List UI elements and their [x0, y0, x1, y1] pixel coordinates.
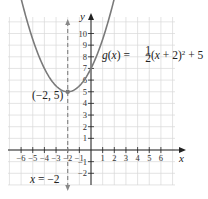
- svg-text:3: 3: [124, 153, 128, 163]
- svg-text:g(x) =: g(x) =: [102, 49, 130, 62]
- vertex-point: [66, 90, 70, 94]
- vertex-label: (−2, 5): [32, 89, 64, 102]
- parabola-graph: −6−5−4−3−2−1123456−2−112345678910 (−2, 5…: [0, 0, 208, 199]
- svg-text:5: 5: [147, 153, 151, 163]
- svg-text:7: 7: [83, 63, 87, 73]
- svg-text:2: 2: [112, 153, 116, 163]
- x-axis-label: x: [178, 152, 184, 164]
- y-axis-label: y: [79, 10, 85, 22]
- svg-text:(x + 2)2 + 5: (x + 2)2 + 5: [151, 49, 204, 62]
- svg-text:10: 10: [79, 29, 88, 39]
- svg-text:−3: −3: [52, 153, 61, 163]
- svg-text:9: 9: [83, 40, 87, 50]
- svg-text:8: 8: [83, 52, 87, 62]
- function-equation-label: g(x) = 12(x + 2)2 + 5: [102, 44, 204, 64]
- svg-text:2: 2: [83, 122, 87, 132]
- svg-text:−2: −2: [78, 168, 87, 178]
- svg-text:1: 1: [83, 133, 87, 143]
- svg-text:1: 1: [101, 153, 105, 163]
- svg-text:6: 6: [159, 153, 163, 163]
- svg-text:−1: −1: [78, 157, 87, 167]
- svg-text:−5: −5: [28, 153, 37, 163]
- svg-text:−4: −4: [40, 153, 50, 163]
- svg-text:3: 3: [83, 110, 87, 120]
- svg-text:5: 5: [83, 87, 87, 97]
- svg-text:−6: −6: [17, 153, 26, 163]
- svg-text:4: 4: [135, 153, 140, 163]
- axis-of-symmetry-label: x = −2: [29, 173, 60, 185]
